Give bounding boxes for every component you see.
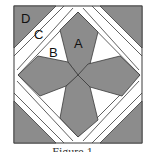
quilt-block-figure: D C B A Figure 1 [0,0,145,152]
label-c: C [34,27,43,42]
label-d: D [21,11,30,26]
figure-caption: Figure 1 [0,146,145,152]
quilt-block-diagram: D C B A [0,0,145,152]
label-a: A [74,36,83,51]
label-b: B [49,45,58,60]
